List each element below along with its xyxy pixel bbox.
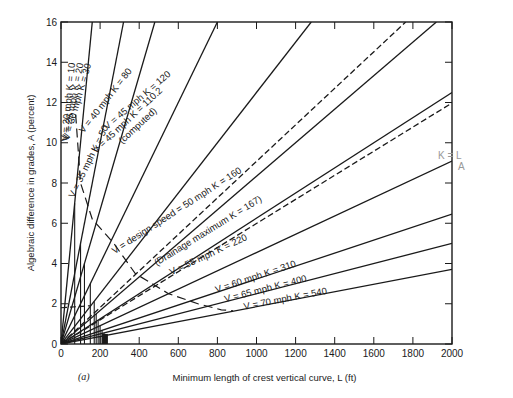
x-axis-title: Minimum length of crest vertical curve, … [173, 372, 357, 383]
y-tick-label: 0 [51, 339, 57, 350]
y-tick-label: 2 [51, 298, 57, 309]
x-tick-label: 1600 [363, 348, 386, 359]
x-tick-label: 1400 [324, 348, 347, 359]
x-tick-label: 0 [58, 348, 64, 359]
y-tick-label: 12 [46, 97, 58, 108]
handwritten-annotation: K = L A [438, 150, 465, 172]
curve-label: V = 55 mph K = 220 [167, 231, 248, 277]
crest-vertical-curve-chart: 0200400600800100012001400160018002000024… [0, 0, 513, 398]
y-tick-label: 8 [51, 178, 57, 189]
y-tick-label: 16 [46, 17, 58, 28]
y-tick-label: 10 [46, 137, 58, 148]
x-tick-label: 400 [131, 348, 148, 359]
x-tick-label: 600 [170, 348, 187, 359]
y-axis-title: Algebraic difference in grades, A (perce… [25, 95, 36, 272]
y-tick-label: 4 [51, 258, 57, 269]
drainage-dashed-start [61, 306, 90, 308]
annotation-top: K = L [438, 150, 465, 161]
x-tick-label: 1000 [245, 348, 268, 359]
x-tick-label: 2000 [441, 348, 464, 359]
x-tick-label: 1800 [402, 348, 425, 359]
y-tick-label: 14 [46, 57, 58, 68]
x-tick-label: 200 [92, 348, 109, 359]
annotation-bottom: A [438, 161, 465, 172]
panel-label: (a) [78, 371, 90, 382]
x-tick-label: 1200 [284, 348, 307, 359]
x-tick-label: 800 [209, 348, 226, 359]
y-tick-label: 6 [51, 218, 57, 229]
origin-block [102, 334, 108, 344]
